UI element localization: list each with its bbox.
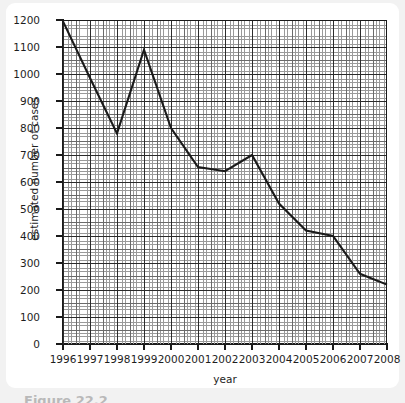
x-tick-2008 xyxy=(386,344,387,350)
y-tick-label-200: 200 xyxy=(20,285,40,296)
x-tick-label-2000: 2000 xyxy=(158,354,185,365)
x-tick-label-2007: 2007 xyxy=(347,354,374,365)
y-tick-label-600: 600 xyxy=(20,177,40,188)
y-tick-label-1000: 1000 xyxy=(13,69,40,80)
y-tick-400 xyxy=(56,235,63,236)
y-tick-label-500: 500 xyxy=(20,204,40,215)
y-tick-label-400: 400 xyxy=(20,231,40,242)
x-tick-label-2004: 2004 xyxy=(266,354,293,365)
x-tick-label-1996: 1996 xyxy=(50,354,77,365)
y-tick-label-700: 700 xyxy=(20,150,40,161)
x-tick-2004 xyxy=(278,344,279,350)
x-tick-2003 xyxy=(251,344,252,350)
y-tick-label-800: 800 xyxy=(20,123,40,134)
x-tick-label-2008: 2008 xyxy=(374,354,401,365)
y-tick-200 xyxy=(56,289,63,290)
figure-caption: Figure 22.2 xyxy=(24,393,108,403)
x-tick-2005 xyxy=(305,344,306,350)
y-tick-900 xyxy=(56,100,63,101)
y-tick-1000 xyxy=(56,73,63,74)
x-tick-1996 xyxy=(62,344,63,350)
x-tick-1998 xyxy=(116,344,117,350)
x-tick-label-2006: 2006 xyxy=(320,354,347,365)
x-tick-label-1999: 1999 xyxy=(131,354,158,365)
y-tick-label-300: 300 xyxy=(20,258,40,269)
x-tick-label-2005: 2005 xyxy=(293,354,320,365)
y-tick-700 xyxy=(56,154,63,155)
y-tick-label-0: 0 xyxy=(33,339,40,350)
x-tick-2002 xyxy=(224,344,225,350)
x-tick-2007 xyxy=(359,344,360,350)
y-tick-label-100: 100 xyxy=(20,312,40,323)
y-tick-label-1100: 1100 xyxy=(13,42,40,53)
x-axis-title: year xyxy=(63,373,387,385)
y-tick-800 xyxy=(56,127,63,128)
plot-area xyxy=(63,20,387,344)
y-tick-600 xyxy=(56,181,63,182)
x-tick-2006 xyxy=(332,344,333,350)
y-tick-1200 xyxy=(56,19,63,20)
y-tick-1100 xyxy=(56,46,63,47)
x-tick-label-2003: 2003 xyxy=(239,354,266,365)
y-tick-label-900: 900 xyxy=(20,96,40,107)
x-tick-1999 xyxy=(143,344,144,350)
x-tick-label-1998: 1998 xyxy=(104,354,131,365)
x-tick-2000 xyxy=(170,344,171,350)
y-tick-300 xyxy=(56,262,63,263)
x-tick-label-1997: 1997 xyxy=(77,354,104,365)
y-tick-500 xyxy=(56,208,63,209)
x-tick-1997 xyxy=(89,344,90,350)
x-tick-2001 xyxy=(197,344,198,350)
figure-card: estimated number of cases 01002003004005… xyxy=(6,3,399,388)
y-tick-100 xyxy=(56,316,63,317)
x-tick-label-2002: 2002 xyxy=(212,354,239,365)
series-line-chart xyxy=(63,20,387,344)
series-polyline xyxy=(63,21,387,284)
y-tick-label-1200: 1200 xyxy=(13,15,40,26)
x-tick-label-2001: 2001 xyxy=(185,354,212,365)
